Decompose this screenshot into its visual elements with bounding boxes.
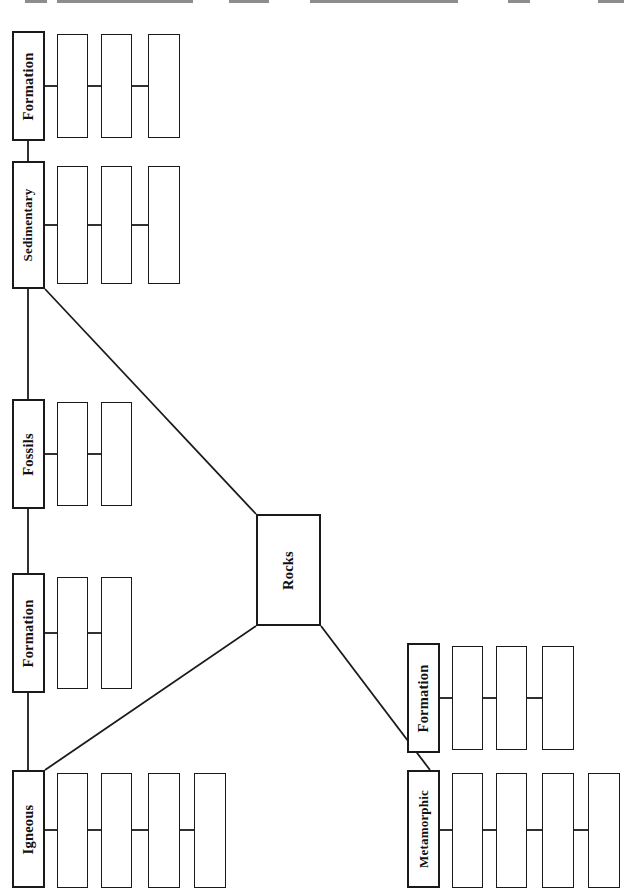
branch-node-label: Formation — [415, 664, 432, 732]
edge-fragment-3 — [229, 0, 269, 3]
branch-node-metamorphic-formation[interactable]: Formation — [407, 643, 440, 753]
blank-answer-box-sedimentary-formation-3[interactable] — [148, 34, 180, 138]
blank-answer-box-igneous-formation-1[interactable] — [57, 577, 88, 689]
branch-node-sedimentary-formation[interactable]: Formation — [12, 31, 45, 141]
blank-answer-box-sedimentary-formation-2[interactable] — [101, 34, 132, 138]
blank-answer-box-igneous-2[interactable] — [101, 773, 132, 888]
blank-answer-box-fossils-2[interactable] — [101, 402, 132, 506]
blank-answer-box-sedimentary-formation-1[interactable] — [57, 34, 88, 138]
blank-answer-box-sedimentary-1[interactable] — [57, 166, 88, 284]
blank-answer-box-metamorphic-4[interactable] — [588, 773, 620, 888]
branch-node-label: Formation — [20, 599, 37, 667]
blank-answer-box-fossils-1[interactable] — [57, 402, 88, 506]
connector-lines — [0, 0, 626, 888]
blank-answer-box-igneous-1[interactable] — [57, 773, 88, 888]
branch-node-label: Igneous — [20, 804, 37, 854]
blank-answer-box-metamorphic-formation-2[interactable] — [496, 646, 527, 750]
branch-node-fossils[interactable]: Fossils — [12, 399, 45, 509]
blank-answer-box-sedimentary-3[interactable] — [148, 166, 180, 284]
edge-fragment-2 — [57, 0, 193, 3]
blank-answer-box-metamorphic-1[interactable] — [452, 773, 483, 888]
branch-node-label: Sedimentary — [21, 189, 37, 262]
edge-fragment-5 — [508, 0, 530, 3]
blank-answer-box-metamorphic-formation-1[interactable] — [452, 646, 483, 750]
blank-answer-box-sedimentary-2[interactable] — [101, 166, 132, 284]
concept-map-canvas: Rocks SedimentaryFormationFossilsFormati… — [0, 0, 626, 888]
branch-node-label: Formation — [20, 52, 37, 120]
branch-node-igneous-formation[interactable]: Formation — [12, 573, 45, 693]
blank-answer-box-igneous-formation-2[interactable] — [101, 577, 132, 689]
edge-fragment-4 — [310, 0, 458, 3]
blank-answer-box-igneous-3[interactable] — [148, 773, 180, 888]
center-node-rocks[interactable]: Rocks — [256, 514, 321, 626]
blank-answer-box-metamorphic-2[interactable] — [496, 773, 527, 888]
edge-fragment-6 — [598, 0, 624, 3]
blank-answer-box-igneous-4[interactable] — [194, 773, 226, 888]
center-node-label: Rocks — [280, 551, 297, 590]
branch-node-sedimentary[interactable]: Sedimentary — [12, 161, 45, 289]
branch-node-metamorphic[interactable]: Metamorphic — [407, 770, 440, 888]
branch-node-label: Metamorphic — [416, 790, 432, 868]
blank-answer-box-metamorphic-formation-3[interactable] — [542, 646, 574, 750]
branch-node-label: Fossils — [20, 433, 37, 476]
branch-node-igneous[interactable]: Igneous — [12, 770, 45, 888]
blank-answer-box-metamorphic-3[interactable] — [542, 773, 574, 888]
edge-fragment-1 — [25, 0, 47, 3]
